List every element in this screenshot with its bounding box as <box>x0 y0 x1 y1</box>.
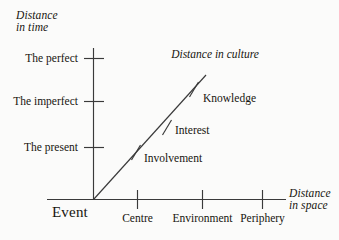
x-tick-label-centre: Centre <box>107 212 168 224</box>
chart-title: Distance in culture <box>155 48 275 60</box>
diagonal-tick-involvement <box>132 145 141 160</box>
point-label-knowledge: Knowledge <box>203 92 256 104</box>
point-label-interest: Interest <box>175 124 209 136</box>
origin-label-event: Event <box>52 204 88 220</box>
y-tick-label-the-present: The present <box>0 141 78 153</box>
distance-diagram-figure: Distance in time The perfect The imperfe… <box>0 0 339 240</box>
y-axis-title-line2: in time <box>16 21 48 33</box>
x-axis-title-line2: in space <box>289 199 328 211</box>
culture-diagonal-line <box>94 75 207 200</box>
y-axis-title-line1: Distance <box>16 9 58 21</box>
diagonal-tick-knowledge <box>190 82 199 97</box>
x-axis-title-line1: Distance <box>289 187 331 199</box>
x-tick-label-periphery: Periphery <box>229 212 296 224</box>
y-tick-label-the-imperfect: The imperfect <box>0 95 78 107</box>
y-axis-title: Distance in time <box>16 9 58 34</box>
x-axis-title: Distance in space <box>289 187 331 212</box>
point-label-involvement: Involvement <box>144 152 202 164</box>
y-tick-label-the-perfect: The perfect <box>0 52 78 64</box>
